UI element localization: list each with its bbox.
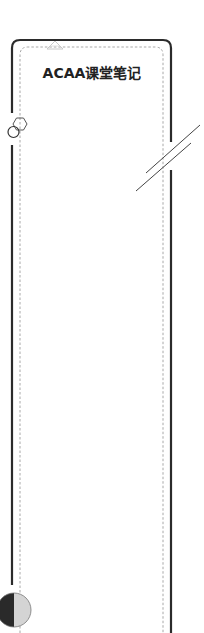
circle-outline-icon [8, 127, 19, 138]
double-slash-lines [136, 125, 200, 191]
outer-border-top [12, 40, 171, 142]
triangle-outline-icon [47, 41, 63, 49]
half-filled-circle-icon [0, 593, 31, 627]
inner-dashed-border [20, 47, 163, 633]
cover-artwork [0, 0, 204, 633]
cover-title: ACAA课堂笔记 [0, 62, 184, 82]
notebook-cover: ACAA课堂笔记 [0, 0, 204, 633]
